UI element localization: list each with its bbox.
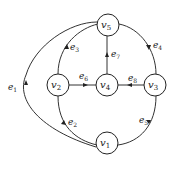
edge-label-e7: e7 bbox=[111, 49, 120, 60]
arrow-e1-icon bbox=[24, 80, 28, 85]
arrow-e2-icon bbox=[61, 120, 66, 125]
edge-label-e3: e3 bbox=[70, 42, 79, 53]
edge-label-e4: e4 bbox=[153, 40, 162, 51]
edge-label-e6: e6 bbox=[79, 71, 88, 82]
arrow-e6-icon bbox=[83, 83, 88, 87]
arrow-e7-icon bbox=[105, 52, 109, 57]
edges bbox=[23, 22, 156, 147]
edge-label-e5: e5 bbox=[139, 115, 148, 126]
arrow-e8-icon bbox=[127, 83, 132, 87]
edge-label-e8: e8 bbox=[128, 73, 137, 84]
graph-diagram: e1 e2 e3 e4 e5 e6 e7 e8 v5 v2 v4 bbox=[0, 0, 179, 171]
node-v2: v2 bbox=[47, 74, 69, 96]
edge-label-e2: e2 bbox=[68, 117, 77, 128]
node-v4: v4 bbox=[96, 74, 118, 96]
edge-label-e1: e1 bbox=[8, 82, 17, 93]
node-v1: v1 bbox=[96, 132, 118, 154]
node-v3: v3 bbox=[144, 74, 166, 96]
edge-e4 bbox=[119, 24, 156, 74]
node-v5: v5 bbox=[97, 14, 119, 36]
